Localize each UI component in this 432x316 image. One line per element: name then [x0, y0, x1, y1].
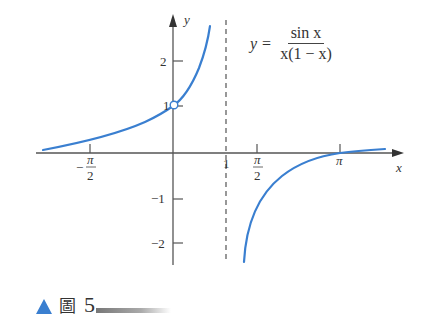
x-axis-arrow-icon	[392, 149, 404, 157]
svg-text:π: π	[87, 152, 94, 167]
x-tick-label-pi: π	[336, 153, 343, 168]
figure-number: 5	[84, 295, 95, 315]
y-tick-label-1: 1	[163, 98, 170, 113]
function-formula: y = sin x x(1 − x)	[250, 24, 335, 63]
figure-word: 圖	[59, 297, 76, 315]
x-tick-label-neg-pi-over-2: − π 2	[76, 152, 96, 183]
y-ticks	[173, 61, 183, 243]
hole-point	[170, 101, 178, 109]
formula-fraction: sin x x(1 − x)	[277, 24, 335, 63]
y-tick-label-neg2: −2	[151, 236, 165, 251]
formula-denominator: x(1 − x)	[277, 44, 335, 63]
x-tick-label-1: 1	[223, 156, 230, 171]
formula-equals: =	[262, 35, 271, 53]
curve-right-branch	[244, 149, 385, 262]
svg-text:−: −	[76, 160, 83, 175]
y-axis-arrow-icon	[169, 14, 177, 27]
formula-lhs: y	[250, 35, 257, 53]
x-ticks	[90, 144, 340, 153]
x-tick-label-pi-over-2: π 2	[253, 152, 263, 183]
function-plot: y x 2 1 −1 −2 − π 2 1 π 2 π	[0, 0, 432, 316]
x-axis-label: x	[395, 160, 402, 175]
formula-numerator: sin x	[288, 24, 325, 44]
svg-text:2: 2	[87, 168, 94, 183]
y-tick-label-2: 2	[160, 54, 167, 69]
y-tick-label-neg1: −1	[151, 191, 165, 206]
curve-left-branch	[43, 26, 210, 150]
svg-text:π: π	[254, 152, 261, 167]
figure-caption: 圖 5	[36, 293, 171, 315]
triangle-icon	[36, 299, 52, 314]
caption-decor-bar	[96, 308, 171, 313]
y-axis-label: y	[182, 12, 190, 27]
svg-text:2: 2	[254, 168, 261, 183]
